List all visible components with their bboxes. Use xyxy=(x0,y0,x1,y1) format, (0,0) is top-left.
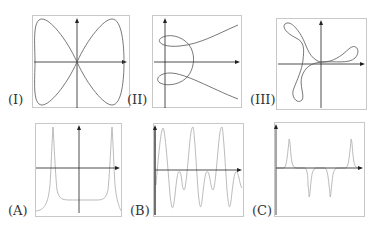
panel-C-plot xyxy=(0,0,377,229)
